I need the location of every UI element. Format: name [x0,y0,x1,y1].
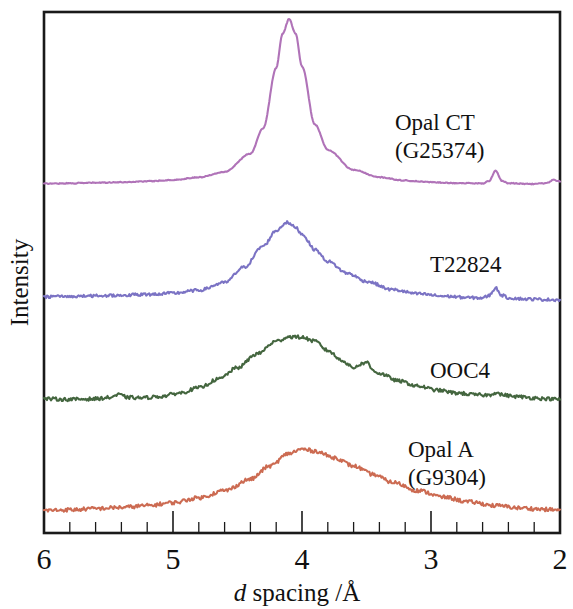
x-axis-major-ticks: 65432 [37,511,568,575]
x-tick-label: 4 [295,542,310,575]
series-annotation: T22824 [430,252,502,277]
x-tick-label: 6 [37,542,52,575]
series-annotation: Opal A [408,437,474,462]
x-tick-label: 3 [424,542,439,575]
xrd-diffraction-figure: 65432d spacing /ÅIntensityOpal CT(G25374… [0,0,573,609]
series-annotation: (G9304) [408,465,486,490]
series-annotation: OOC4 [430,358,491,383]
series-annotation: (G25374) [395,138,484,163]
x-tick-label: 2 [553,542,568,575]
x-tick-label: 5 [166,542,181,575]
plot-canvas: 65432d spacing /ÅIntensityOpal CT(G25374… [0,0,573,609]
series-annotation: Opal CT [395,110,475,135]
x-axis-title: d spacing /Å [234,579,360,606]
y-axis-title: Intensity [6,238,33,326]
